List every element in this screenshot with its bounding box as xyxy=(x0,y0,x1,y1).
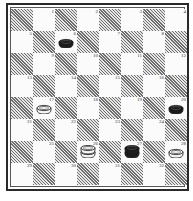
square-number: 12 xyxy=(181,53,186,59)
square-number: 16 xyxy=(159,75,164,81)
board-square-15[interactable]: 15 xyxy=(99,75,121,97)
square-number: 14 xyxy=(71,75,76,81)
board-square-unplayable xyxy=(121,31,143,53)
board-square-29[interactable]: 29 xyxy=(11,163,33,185)
board-square-unplayable xyxy=(165,163,187,185)
board-square-24[interactable]: 24 xyxy=(143,119,165,141)
board-square-5[interactable]: 5 xyxy=(11,31,33,53)
black-king-piece-icon[interactable] xyxy=(124,148,140,159)
square-number: 15 xyxy=(115,75,120,81)
board-square-13[interactable]: 13 xyxy=(11,75,33,97)
board-square-28[interactable]: 28 xyxy=(165,141,187,163)
board-square-unplayable xyxy=(165,75,187,97)
square-number: 7 xyxy=(118,31,121,37)
board-square-21[interactable]: 21 xyxy=(11,119,33,141)
board-square-unplayable xyxy=(77,31,99,53)
board-square-unplayable xyxy=(121,163,143,185)
white-man-piece-icon[interactable] xyxy=(168,148,184,159)
board-square-1[interactable]: 1 xyxy=(33,9,55,31)
board-square-unplayable xyxy=(33,75,55,97)
square-number: 20 xyxy=(181,97,186,103)
board-square-unplayable xyxy=(11,53,33,75)
square-number: 6 xyxy=(74,31,77,37)
board-square-10[interactable]: 10 xyxy=(77,53,99,75)
square-number: 1 xyxy=(52,9,55,15)
board-square-unplayable xyxy=(11,97,33,119)
board-square-unplayable xyxy=(55,9,77,31)
square-number: 18 xyxy=(93,97,98,103)
board-square-26[interactable]: 26 xyxy=(77,141,99,163)
board-square-unplayable xyxy=(77,75,99,97)
board-square-3[interactable]: 3 xyxy=(121,9,143,31)
white-king-piece-icon[interactable] xyxy=(80,148,96,159)
board-square-17[interactable]: 17 xyxy=(33,97,55,119)
square-number: 30 xyxy=(71,163,76,169)
board-square-unplayable xyxy=(143,141,165,163)
board-square-16[interactable]: 16 xyxy=(143,75,165,97)
square-number: 32 xyxy=(159,163,164,169)
board-square-unplayable xyxy=(33,119,55,141)
square-number: 5 xyxy=(30,31,33,37)
square-number: 17 xyxy=(49,97,54,103)
board-square-unplayable xyxy=(77,163,99,185)
board-square-unplayable xyxy=(143,9,165,31)
square-number: 2 xyxy=(96,9,99,15)
board-square-18[interactable]: 18 xyxy=(77,97,99,119)
board-square-unplayable xyxy=(55,97,77,119)
board-square-8[interactable]: 8 xyxy=(143,31,165,53)
board-square-unplayable xyxy=(55,141,77,163)
board-square-30[interactable]: 30 xyxy=(55,163,77,185)
board-square-unplayable xyxy=(99,53,121,75)
square-number: 29 xyxy=(27,163,32,169)
board-square-unplayable xyxy=(143,53,165,75)
board-square-4[interactable]: 4 xyxy=(165,9,187,31)
square-number: 28 xyxy=(181,141,186,147)
white-man-piece-icon[interactable] xyxy=(36,104,52,115)
checkers-board: 1234567891011121314151617181920212223242… xyxy=(11,9,187,185)
square-number: 10 xyxy=(93,53,98,59)
board-square-unplayable xyxy=(11,141,33,163)
square-number: 13 xyxy=(27,75,32,81)
board-square-27[interactable]: 27 xyxy=(121,141,143,163)
board-square-unplayable xyxy=(121,75,143,97)
board-square-22[interactable]: 22 xyxy=(55,119,77,141)
board-square-31[interactable]: 31 xyxy=(99,163,121,185)
square-number: 8 xyxy=(162,31,165,37)
square-number: 23 xyxy=(115,119,120,125)
board-square-unplayable xyxy=(99,97,121,119)
board-square-unplayable xyxy=(33,163,55,185)
board-square-unplayable xyxy=(121,119,143,141)
board-square-32[interactable]: 32 xyxy=(143,163,165,185)
board-square-14[interactable]: 14 xyxy=(55,75,77,97)
board-square-unplayable xyxy=(33,31,55,53)
board-square-unplayable xyxy=(99,9,121,31)
board-square-11[interactable]: 11 xyxy=(121,53,143,75)
square-number: 9 xyxy=(52,53,55,59)
board-square-2[interactable]: 2 xyxy=(77,9,99,31)
board-square-unplayable xyxy=(99,141,121,163)
board-square-unplayable xyxy=(11,9,33,31)
board-square-23[interactable]: 23 xyxy=(99,119,121,141)
board-square-unplayable xyxy=(165,31,187,53)
board-square-20[interactable]: 20 xyxy=(165,97,187,119)
board-square-unplayable xyxy=(143,97,165,119)
black-man-piece-icon[interactable] xyxy=(168,104,184,115)
black-man-piece-icon[interactable] xyxy=(58,38,74,49)
square-number: 3 xyxy=(140,9,143,15)
square-number: 21 xyxy=(27,119,32,125)
board-square-9[interactable]: 9 xyxy=(33,53,55,75)
square-number: 22 xyxy=(71,119,76,125)
square-number: 19 xyxy=(137,97,142,103)
board-square-19[interactable]: 19 xyxy=(121,97,143,119)
square-number: 25 xyxy=(49,141,54,147)
board-square-unplayable xyxy=(55,53,77,75)
square-number: 31 xyxy=(115,163,120,169)
board-square-25[interactable]: 25 xyxy=(33,141,55,163)
square-number: 11 xyxy=(137,53,142,59)
board-square-unplayable xyxy=(165,119,187,141)
board-square-12[interactable]: 12 xyxy=(165,53,187,75)
square-number: 24 xyxy=(159,119,164,125)
board-square-unplayable xyxy=(77,119,99,141)
board-square-7[interactable]: 7 xyxy=(99,31,121,53)
board-square-6[interactable]: 6 xyxy=(55,31,77,53)
